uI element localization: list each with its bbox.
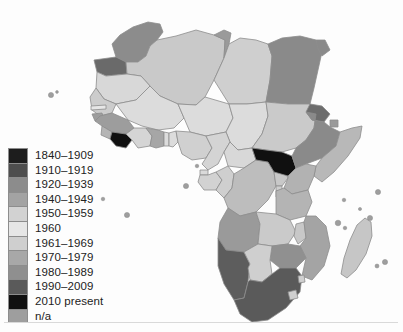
island-dot-canary: [56, 91, 59, 94]
legend-item[interactable]: 1910–1919: [8, 163, 103, 178]
island-dot-reunion: [375, 264, 379, 268]
legend-item[interactable]: 1961–1969: [8, 236, 103, 251]
legend-item[interactable]: 2010 present: [8, 294, 103, 309]
footer-divider: [4, 322, 398, 323]
region-gambia: [91, 105, 106, 110]
legend-swatch-1990-2009: [8, 279, 28, 294]
island-dot-socotra: [375, 189, 380, 194]
legend-item[interactable]: n/a: [8, 309, 103, 324]
legend-item[interactable]: 1980–1989: [8, 265, 103, 280]
legend-item[interactable]: 1840–1909: [8, 148, 103, 163]
island-dot-comoros: [335, 220, 341, 226]
island-dot-sao-tome: [183, 183, 188, 188]
legend-label-1910-1919: 1910–1919: [35, 163, 93, 178]
island-dot-cape-verde: [48, 92, 53, 97]
legend-label-1940-1949: 1940–1949: [35, 192, 93, 207]
legend-label-1840-1909: 1840–1909: [35, 148, 93, 163]
island-dot-mauritius: [382, 259, 387, 264]
legend-swatch-1940-1949: [8, 192, 28, 207]
legend-label-1960: 1960: [35, 221, 61, 236]
legend-label-na: n/a: [35, 309, 51, 324]
legend-item[interactable]: 1990–2009: [8, 279, 103, 294]
legend-item[interactable]: 1920–1939: [8, 177, 103, 192]
legend-swatch-1961-1969: [8, 236, 28, 251]
legend-item[interactable]: 1970–1979: [8, 250, 103, 265]
legend-swatch-1840-1909: [8, 148, 28, 163]
legend-label-2010-present: 2010 present: [35, 294, 103, 309]
legend-swatch-na: [8, 309, 28, 324]
legend-label-1980-1989: 1980–1989: [35, 265, 93, 280]
legend-swatch-1960: [8, 221, 28, 236]
legend-swatch-1980-1989: [8, 265, 28, 280]
legend-swatch-2010-present: [8, 294, 28, 309]
island-dot-bioko: [195, 164, 199, 168]
island-dot-seychelles: [367, 215, 372, 220]
region-equatorial-guinea: [200, 170, 208, 175]
island-dot-aldabra: [358, 207, 361, 210]
legend-swatch-1920-1939: [8, 177, 28, 192]
legend-label-1950-1959: 1950–1959: [35, 206, 93, 221]
legend-item[interactable]: 1940–1949: [8, 192, 103, 207]
island-dot-mayotte: [343, 226, 347, 230]
island-dot-st-helena: [124, 212, 129, 217]
map-legend: 1840–1909 1910–1919 1920–1939 1940–1949 …: [8, 148, 103, 323]
africa-choropleth-map: 1840–1909 1910–1919 1920–1939 1940–1949 …: [0, 0, 403, 332]
legend-swatch-1910-1919: [8, 163, 28, 178]
legend-label-1961-1969: 1961–1969: [35, 236, 93, 251]
region-lesotho: [288, 290, 298, 300]
region-swaziland: [298, 275, 305, 283]
island-dot-juan-de-nova: [342, 198, 346, 202]
legend-item[interactable]: 1950–1959: [8, 206, 103, 221]
region-togo: [164, 132, 169, 146]
legend-item[interactable]: 1960: [8, 221, 103, 236]
legend-label-1970-1979: 1970–1979: [35, 250, 93, 265]
legend-swatch-1950-1959: [8, 206, 28, 221]
legend-label-1990-2009: 1990–2009: [35, 279, 93, 294]
legend-swatch-1970-1979: [8, 250, 28, 265]
legend-label-1920-1939: 1920–1939: [35, 177, 93, 192]
region-djibouti: [330, 120, 338, 127]
